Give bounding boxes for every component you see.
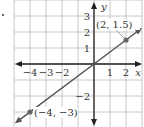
x-axis-label: x	[135, 67, 141, 78]
coordinate-plane: −4−3−212321−2 x y (2, 1.5)(−4, −3)	[0, 0, 144, 127]
x-tick-label: 2	[123, 67, 129, 78]
y-axis-label: y	[100, 1, 107, 12]
x-tick-label: 1	[107, 67, 113, 78]
x-axis-arrow-left-icon	[15, 61, 22, 67]
line-arrow-icon	[15, 117, 22, 124]
y-axis-arrow-down-icon	[91, 119, 97, 126]
label-leader-line	[116, 30, 124, 38]
x-tick-label: −3	[39, 67, 54, 78]
y-tick-label: 3	[84, 11, 90, 22]
y-tick-label: 1	[84, 43, 90, 54]
y-axis-arrow-up-icon	[91, 2, 97, 9]
y-tick-label: −2	[75, 91, 90, 102]
x-tick-label: −4	[23, 67, 38, 78]
x-tick-label: −2	[55, 67, 70, 78]
data-point	[27, 109, 32, 114]
point-label: (2, 1.5)	[96, 19, 133, 30]
point-label: (−4, −3)	[34, 107, 78, 118]
y-tick-label: 2	[84, 27, 90, 38]
data-point	[123, 37, 128, 42]
